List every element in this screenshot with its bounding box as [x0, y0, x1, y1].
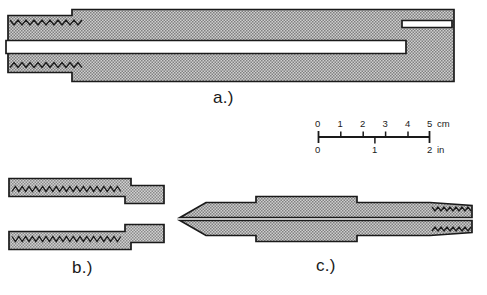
scale-label-in-2: 2	[427, 144, 432, 155]
scale-label-cm-3: 3	[383, 118, 388, 129]
part-b-collar-halves	[9, 179, 164, 250]
figure-caption-c: c.)	[316, 256, 336, 276]
scale-label-cm-5: 5	[427, 118, 432, 129]
part-a-right-end-slot	[402, 21, 452, 28]
scale-label-in-1: 1	[372, 144, 377, 155]
figure-caption-a: a.)	[213, 88, 234, 108]
scale-bar-graphic	[318, 131, 430, 144]
scale-label-cm-0: 0	[315, 118, 320, 129]
part-c-spear-shaft	[180, 197, 472, 242]
scale-unit-cm: cm	[437, 118, 450, 129]
part-c-upper-body	[180, 197, 472, 218]
scale-unit-in: in	[437, 144, 444, 155]
technical-drawing-figure: a.) b.) c.) 0 1 2 3 4 5 cm 0 1 2 in	[0, 0, 487, 295]
figure-caption-b: b.)	[72, 258, 93, 278]
part-c-lower-body	[180, 221, 472, 242]
scale-label-cm-1: 1	[338, 118, 343, 129]
scale-label-cm-4: 4	[405, 118, 410, 129]
part-a-assembled-body	[6, 10, 454, 82]
part-a-internal-slot	[6, 41, 406, 54]
drawing-canvas	[0, 0, 487, 295]
scale-label-cm-2: 2	[360, 118, 365, 129]
scale-label-in-0: 0	[315, 144, 320, 155]
